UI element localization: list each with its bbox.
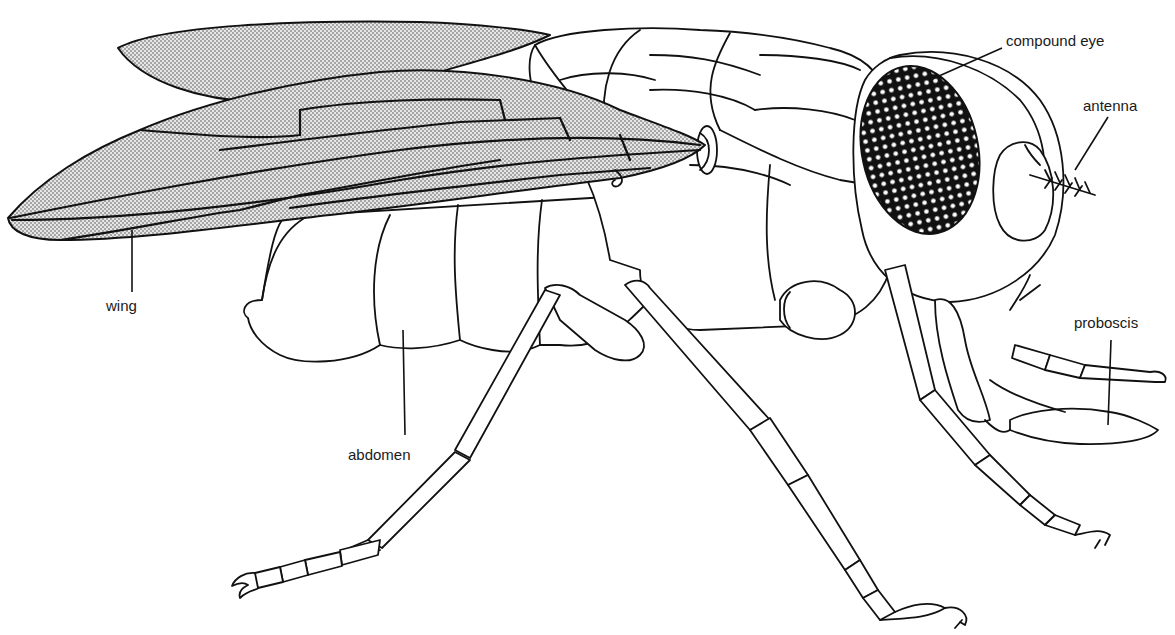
label-abdomen: abdomen <box>348 447 411 462</box>
label-proboscis: proboscis <box>1074 315 1138 330</box>
label-wing: wing <box>106 298 137 313</box>
front-leg-shape <box>885 265 1110 548</box>
fly-diagram: compound eye antenna wing abdomen probos… <box>0 0 1175 635</box>
label-antenna: antenna <box>1083 98 1137 113</box>
leader-antenna <box>1075 117 1108 170</box>
fly-illustration <box>0 0 1175 635</box>
label-compound-eye: compound eye <box>1006 33 1104 48</box>
